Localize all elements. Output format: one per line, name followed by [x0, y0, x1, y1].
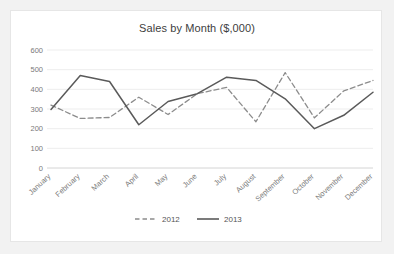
gridlines	[47, 50, 373, 168]
y-axis-tick-label: 200	[30, 124, 43, 133]
y-axis-tick-label: 500	[30, 65, 43, 74]
y-axis-tick-labels: 0100200300400500600	[30, 46, 43, 173]
chart-legend[interactable]: 20122013	[135, 215, 242, 224]
series-line-2013	[51, 76, 373, 129]
x-axis-tick-label: January	[27, 172, 53, 197]
x-axis-tick-label: March	[90, 172, 111, 193]
x-axis-tick-label: September	[254, 172, 287, 204]
x-axis-tick-label: November	[314, 172, 346, 203]
x-axis-tick-label: April	[123, 172, 140, 189]
x-axis-tick-label: May	[153, 172, 170, 188]
line-chart-plot: 0100200300400500600 JanuaryFebruaryMarch…	[11, 11, 383, 243]
x-axis-tick-label: June	[181, 172, 199, 190]
y-axis-tick-label: 100	[30, 144, 43, 153]
y-axis-tick-label: 400	[30, 85, 43, 94]
y-axis-tick-label: 0	[39, 164, 43, 173]
data-series	[51, 73, 373, 129]
x-axis-tick-label: February	[54, 172, 82, 199]
x-axis-tick-label: October	[290, 172, 316, 197]
chart-card: Sales by Month ($,000) 01002003004005006…	[10, 10, 382, 242]
x-axis-tick-label: December	[343, 172, 375, 203]
legend-label-2013[interactable]: 2013	[224, 215, 242, 224]
x-axis-tick-labels: JanuaryFebruaryMarchAprilMayJuneJulyAugu…	[27, 171, 375, 203]
legend-label-2012[interactable]: 2012	[162, 215, 180, 224]
x-axis-tick-label: August	[234, 171, 258, 194]
x-axis-tick-label: July	[212, 172, 228, 188]
y-axis-tick-label: 600	[30, 46, 43, 55]
y-axis-tick-label: 300	[30, 105, 43, 114]
